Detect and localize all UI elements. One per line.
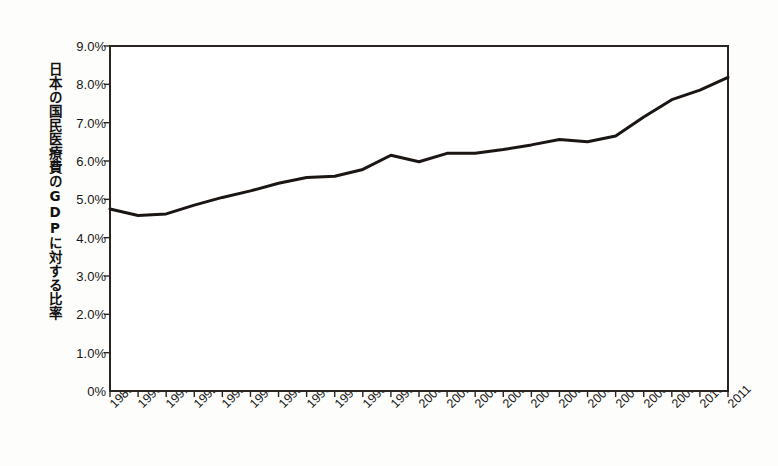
plot-background (110, 46, 728, 391)
plot-area (0, 0, 778, 466)
chart-container: 日本の国民医療費のGDPに対する比率 0%1.0%2.0%3.0%4.0%5.0… (0, 0, 778, 466)
